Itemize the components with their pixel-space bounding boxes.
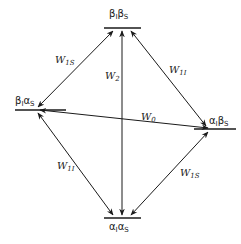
arrow-w0-horizontal — [40, 110, 208, 128]
label-w1i-bottom-left: W1I — [57, 161, 75, 173]
transition-diagram — [0, 0, 241, 244]
label-w1s-top-left: W1S — [55, 55, 75, 67]
label-w2: W2 — [105, 71, 120, 83]
arrow-w1i-bottom-left — [38, 113, 113, 215]
label-w1s-bottom-right: W1S — [180, 168, 200, 180]
level-label-top: βIβS — [109, 9, 128, 21]
arrow-w1s-top-left — [38, 31, 113, 107]
level-label-bottom: αIαS — [109, 222, 129, 234]
label-w1i-top-right: W1I — [169, 65, 187, 77]
label-w0: W0 — [141, 112, 156, 124]
level-label-right: αIβS — [209, 116, 229, 128]
level-label-left: βIαS — [15, 96, 35, 108]
